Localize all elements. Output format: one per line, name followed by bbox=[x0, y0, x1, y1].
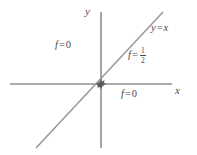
zero-value-upper: 0 bbox=[66, 39, 71, 50]
equation-equals-sign: = bbox=[156, 22, 164, 33]
identity-line bbox=[36, 12, 163, 148]
f-equals-zero-lower-right-label: f=0 bbox=[121, 89, 137, 100]
equals-sign-lower: = bbox=[124, 88, 132, 99]
one-half-fraction: 1 2 bbox=[140, 47, 146, 64]
zero-value-lower: 0 bbox=[132, 88, 137, 99]
identity-line-equation-label: y=x bbox=[151, 23, 168, 34]
fraction-denominator: 2 bbox=[140, 56, 146, 64]
equals-sign-upper: = bbox=[58, 39, 66, 50]
x-axis-label: x bbox=[175, 85, 180, 96]
equals-sign-half: = bbox=[131, 49, 139, 60]
y-axis-label: y bbox=[85, 6, 90, 17]
coordinate-plane-figure: y x f=0 f=0 y=x f= 1 2 bbox=[0, 0, 197, 155]
equation-rhs: x bbox=[164, 22, 169, 33]
f-equals-zero-upper-left-label: f=0 bbox=[55, 40, 71, 51]
equation-lhs: y bbox=[151, 22, 156, 33]
f-equals-one-half-label: f= 1 2 bbox=[128, 47, 146, 64]
fraction-numerator: 1 bbox=[140, 47, 146, 55]
